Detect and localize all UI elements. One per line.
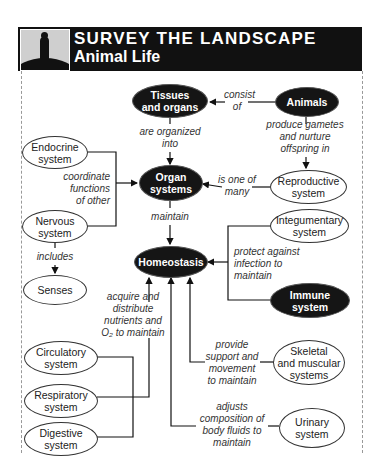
node-integumentary-system: Integumentarysystem — [270, 209, 349, 243]
link-consist-of: consistof — [224, 89, 250, 113]
node-immune-system: Immunesystem — [270, 283, 350, 318]
node-respiratory-system: Respiratorysystem — [24, 384, 98, 418]
link-coordinate-functions: coordinatefunctionsof other — [54, 171, 110, 207]
node-circulatory-system: Circulatorysystem — [24, 341, 98, 375]
link-maintain: maintain — [140, 211, 200, 223]
node-animals: Animals — [275, 87, 339, 117]
link-adjusts-composition: adjustscomposition ofbody fluids tomaint… — [194, 401, 270, 449]
link-provide-support: providesupport andmovementto maintain — [200, 339, 264, 387]
node-skeletal-muscular-systems: Skeletaland muscularsystems — [273, 340, 345, 385]
node-tissues-and-organs: Tissuesand organs — [132, 84, 208, 118]
node-reproductive-system: Reproductivesystem — [270, 170, 347, 204]
link-protect-against-infection: protect againstinfection tomaintain — [234, 246, 310, 282]
node-endocrine-system: Endocrinesystem — [22, 136, 88, 169]
link-are-organized-into: are organizedinto — [132, 126, 208, 150]
node-senses: Senses — [23, 275, 87, 305]
link-includes: includes — [30, 251, 80, 263]
node-digestive-system: Digestivesystem — [24, 422, 98, 456]
node-homeostasis: Homeostasis — [134, 246, 208, 278]
link-produce-gametes: produce gametesand nurtureoffspring in — [262, 119, 348, 155]
link-is-one-of-many: is one ofmany — [214, 174, 260, 198]
node-nervous-system: Nervoussystem — [22, 210, 88, 243]
node-urinary-system: Urinarysystem — [279, 408, 345, 448]
node-organ-systems: Organsystems — [139, 165, 203, 201]
link-acquire-distribute: acquire anddistributenutrients andO₂ to … — [98, 291, 168, 339]
